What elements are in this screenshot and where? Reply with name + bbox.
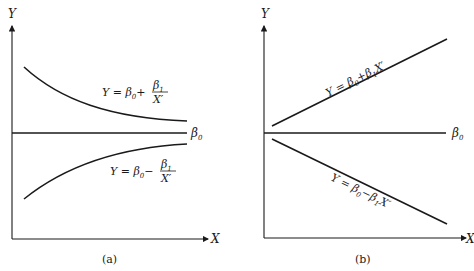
panel-a-upper-equation: Y = β0+ β1 X′ bbox=[102, 79, 168, 106]
panel-a: Y X β0 Y = β0+ β1 X′ Y = β0− bbox=[8, 7, 220, 266]
svg-text:Y = β0−: Y = β0− bbox=[110, 165, 154, 180]
svg-text:Y = β0+: Y = β0+ bbox=[102, 86, 146, 101]
panel-a-asymptote-label: β0 bbox=[190, 126, 203, 142]
panel-b-baseline-label: β0 bbox=[451, 126, 464, 142]
panel-b-lower-line bbox=[272, 139, 447, 224]
panel-a-y-axis-label: Y bbox=[8, 7, 17, 21]
svg-text:X′: X′ bbox=[160, 172, 172, 185]
panel-a-x-axis-label: X bbox=[210, 232, 220, 246]
figure-canvas: Y X β0 Y = β0+ β1 X′ Y = β0− bbox=[0, 0, 474, 271]
panel-b-upper-equation: Y = β0+β1X′ bbox=[324, 59, 389, 102]
panel-b-lower-equation: Y = β0−β1X′ bbox=[328, 171, 393, 213]
panel-a-caption: (a) bbox=[102, 253, 117, 266]
panel-a-lower-equation: Y = β0− β1 X′ bbox=[110, 158, 176, 185]
panel-b: Y X β0 Y = β0+β1X′ Y = β0−β1X′ (b) bbox=[261, 7, 474, 266]
panel-b-x-axis-label: X bbox=[465, 232, 474, 246]
panel-b-caption: (b) bbox=[355, 253, 371, 266]
panel-b-y-axis-label: Y bbox=[261, 7, 270, 21]
svg-text:X′: X′ bbox=[152, 93, 164, 106]
